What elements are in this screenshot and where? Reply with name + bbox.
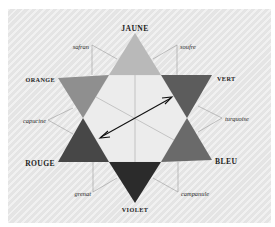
label-orange: ORANGE — [25, 76, 55, 83]
label-jaune: JAUNE — [121, 24, 148, 33]
label-turquoise: turquoise — [225, 115, 249, 122]
triangle-violet — [109, 162, 161, 203]
label-rouge: ROUGE — [25, 159, 55, 168]
label-bleu: BLEU — [215, 157, 237, 166]
label-soufre: soufre — [180, 43, 196, 50]
label-safran: safran — [73, 43, 89, 50]
label-capucine: capucine — [23, 117, 46, 124]
label-grenat: grenat — [75, 190, 92, 197]
label-campanule: campanule — [181, 190, 209, 197]
label-vert: VERT — [217, 75, 236, 82]
label-violet: VIOLET — [122, 206, 149, 213]
triangle-jaune — [109, 33, 161, 75]
color-star-diagram: JAUNE VERT BLEU VIOLET ROUGE ORANGE safr… — [0, 0, 275, 227]
